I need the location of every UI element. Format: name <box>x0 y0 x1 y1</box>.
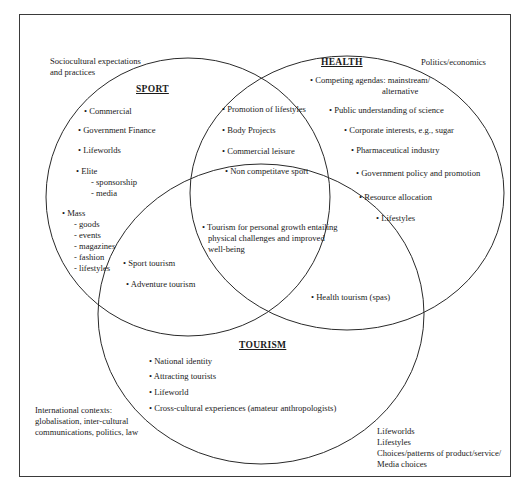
sport-subitem: - sponsorship <box>91 177 137 188</box>
outer-label-sociocultural: Sociocultural expectations and practices <box>50 56 141 78</box>
all-three-item-continuation: physical challenges and improved <box>202 233 338 244</box>
outer-label-line: Choices/patterns of product/service/ <box>377 448 501 459</box>
outer-label-line: communications, politics, law <box>35 427 138 438</box>
sport-subitem: - events <box>74 230 115 241</box>
outer-label-lifeworlds: Lifeworlds Lifestyles Choices/patterns o… <box>377 426 501 470</box>
health-item: • Public understanding of science <box>329 105 444 116</box>
sport-subitem: - magazines <box>74 241 115 252</box>
sport-item: • Government Finance <box>78 125 155 136</box>
sport-subitem: - lifestyles <box>74 263 115 274</box>
health-tourism-item: • Health tourism (spas) <box>311 292 390 303</box>
health-title: HEALTH <box>321 57 363 67</box>
outer-label-line: and practices <box>50 67 141 78</box>
health-item: • Resource allocation <box>359 192 432 203</box>
health-circle <box>190 56 504 330</box>
sport-subitem: - goods <box>74 219 115 230</box>
tourism-item: • Lifeworld <box>149 387 189 398</box>
health-item: • Pharmaceutical industry <box>351 145 439 156</box>
sport-subitem: - media <box>91 188 137 199</box>
sport-health-item: • Commercial leisure <box>222 146 295 157</box>
all-three-intersection: • Tourism for personal growth entailing … <box>202 222 338 255</box>
outer-label-line: Lifestyles <box>377 437 501 448</box>
sport-tourism-item: • Adventure tourism <box>126 279 195 290</box>
tourism-item: • National identity <box>149 356 212 367</box>
all-three-item-continuation: well-being <box>202 244 338 255</box>
sport-title: SPORT <box>136 84 169 94</box>
sport-mass-sublist: - goods - events - magazines - fashion -… <box>74 219 115 274</box>
tourism-title: TOURISM <box>239 340 286 350</box>
sport-health-item: • Non competitave sport <box>225 166 308 177</box>
health-item: • Government policy and promotion <box>356 168 480 179</box>
health-item: • Corporate interests, e.g., sugar <box>344 125 454 136</box>
sport-tourism-item: • Sport tourism <box>123 258 175 269</box>
sport-item: • Commercial <box>84 106 132 117</box>
sport-item: • Lifeworlds <box>78 145 121 156</box>
health-item: • Lifestyles <box>376 213 415 224</box>
outer-label-line: Sociocultural expectations <box>50 56 141 67</box>
all-three-item: • Tourism for personal growth entailing <box>202 222 338 233</box>
tourism-item: • Attracting tourists <box>149 371 216 382</box>
outer-label-international: International contexts: globalisation, i… <box>35 405 138 438</box>
outer-label-line: Media choices <box>377 459 501 470</box>
outer-label-line: Lifeworlds <box>377 426 501 437</box>
sport-subitem: - fashion <box>74 252 115 263</box>
health-item-continuation: alternative <box>382 86 418 97</box>
health-item: • Competing agendas: mainstream/ <box>310 75 430 86</box>
outer-label-politics: Politics/economics <box>421 57 486 68</box>
sport-health-item: • Promotion of lifestyles <box>222 104 306 115</box>
sport-health-item: • Body Projects <box>222 125 276 136</box>
sport-item: • Elite <box>76 166 97 177</box>
outer-label-line: globalisation, inter-cultural <box>35 416 138 427</box>
outer-label-line: International contexts: <box>35 405 138 416</box>
sport-elite-sublist: - sponsorship - media <box>91 177 137 199</box>
sport-circle <box>46 58 330 336</box>
tourism-circle <box>98 164 424 464</box>
tourism-item: • Cross-cultural experiences (amateur an… <box>149 403 336 414</box>
sport-item-mass: • Mass <box>62 208 85 219</box>
